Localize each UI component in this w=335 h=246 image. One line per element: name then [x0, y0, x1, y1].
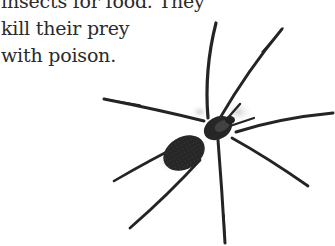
spider-image — [0, 0, 335, 246]
spider-body — [157, 111, 237, 178]
